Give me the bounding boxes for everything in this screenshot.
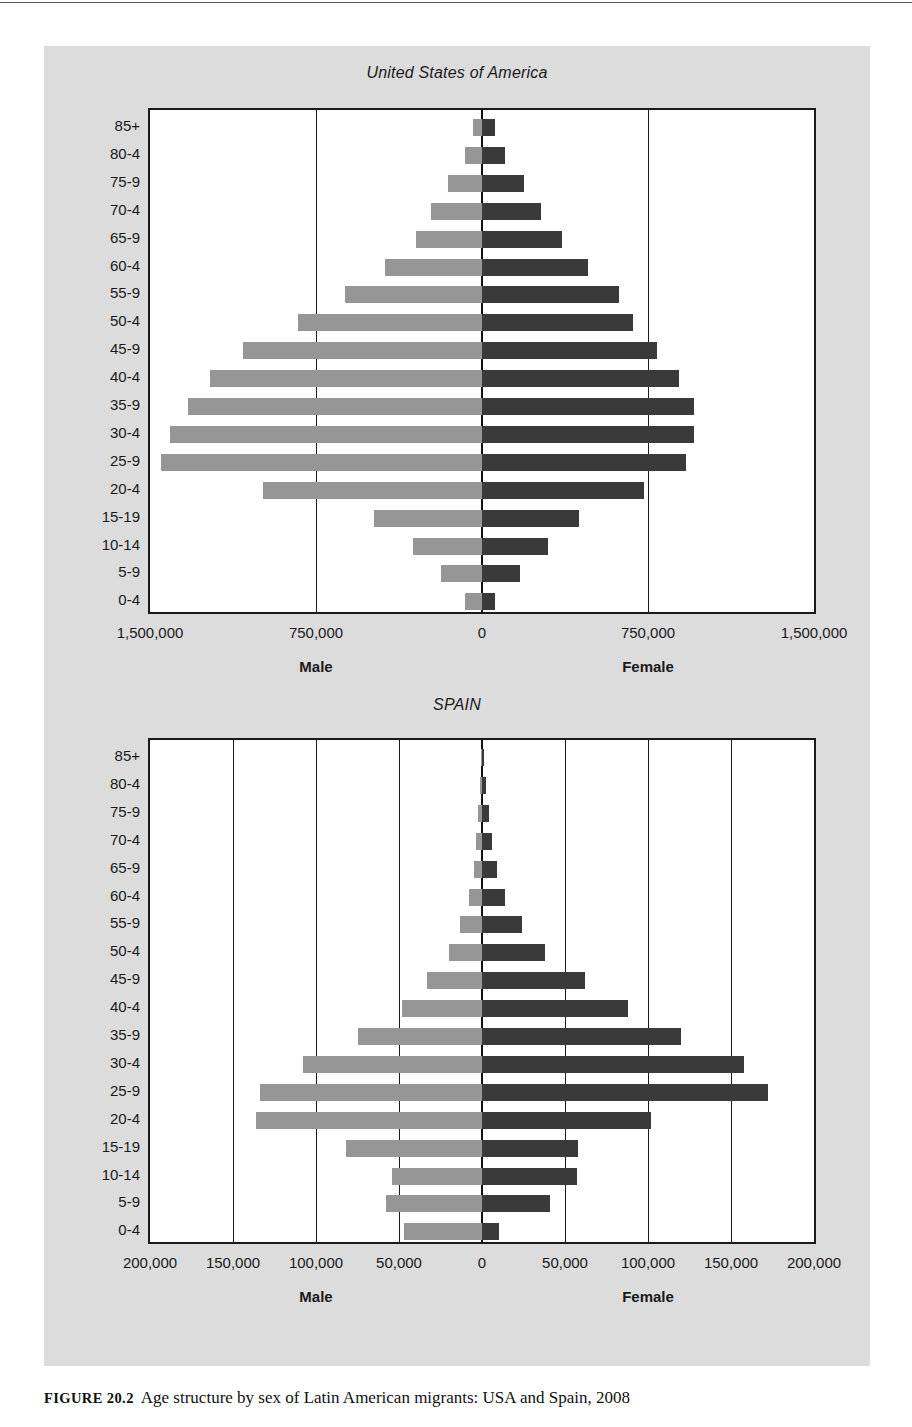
- gridline: [316, 110, 317, 612]
- y-axis-label-40-4: 40-4: [56, 998, 140, 1015]
- y-axis-label-75-9: 75-9: [56, 803, 140, 820]
- bar-female-45-9: [482, 342, 657, 359]
- y-axis-label-80-4: 80-4: [56, 775, 140, 792]
- x-axis-tick-label: 200,000: [123, 1254, 177, 1271]
- bar-male-15-19: [374, 510, 482, 527]
- male-axis-label: Male: [299, 1288, 332, 1305]
- bar-female-10-14: [482, 538, 548, 555]
- figure-panel: United States of America 85+80-475-970-4…: [44, 46, 870, 1366]
- y-axis-label-85+: 85+: [56, 747, 140, 764]
- bar-male-0-4: [404, 1223, 482, 1240]
- x-axis-tick-label: 150,000: [206, 1254, 260, 1271]
- bar-female-40-4: [482, 370, 679, 387]
- bar-female-35-9: [482, 1028, 681, 1045]
- bar-male-50-4: [449, 944, 482, 961]
- male-axis-label: Male: [299, 658, 332, 675]
- y-axis-label-25-9: 25-9: [56, 452, 140, 469]
- bar-female-50-4: [482, 944, 545, 961]
- bar-female-50-4: [482, 314, 633, 331]
- bar-female-0-4: [482, 1223, 499, 1240]
- chart-usa-plot-area: [148, 108, 816, 614]
- x-axis-tick-label: 100,000: [289, 1254, 343, 1271]
- bar-male-55-9: [460, 916, 482, 933]
- x-axis-tick-label: 750,000: [289, 624, 343, 641]
- bar-male-40-4: [402, 1000, 482, 1017]
- bar-male-55-9: [345, 286, 482, 303]
- bar-male-5-9: [441, 565, 482, 582]
- bar-female-0-4: [482, 593, 495, 610]
- y-axis-label-75-9: 75-9: [56, 173, 140, 190]
- bar-male-25-9: [260, 1084, 482, 1101]
- y-axis-label-80-4: 80-4: [56, 145, 140, 162]
- y-axis-label-5-9: 5-9: [56, 1193, 140, 1210]
- bar-female-5-9: [482, 565, 520, 582]
- bar-male-85+: [473, 119, 482, 136]
- bar-female-20-4: [482, 1112, 651, 1129]
- x-axis-tick-label: 1,500,000: [781, 624, 848, 641]
- bar-male-80-4: [465, 147, 482, 164]
- bar-female-10-14: [482, 1168, 577, 1185]
- x-axis-tick-label: 0: [478, 624, 486, 641]
- bar-male-75-9: [448, 175, 482, 192]
- y-axis-label-65-9: 65-9: [56, 229, 140, 246]
- y-axis-label-55-9: 55-9: [56, 914, 140, 931]
- bar-female-40-4: [482, 1000, 628, 1017]
- bar-male-50-4: [298, 314, 482, 331]
- y-axis-label-30-4: 30-4: [56, 424, 140, 441]
- bar-female-70-4: [482, 833, 492, 850]
- bar-female-55-9: [482, 916, 522, 933]
- bar-male-15-19: [346, 1140, 482, 1157]
- bar-female-35-9: [482, 398, 694, 415]
- y-axis-label-35-9: 35-9: [56, 396, 140, 413]
- chart-spain-title: SPAIN: [44, 696, 870, 714]
- y-axis-label-35-9: 35-9: [56, 1026, 140, 1043]
- chart-usa-title: United States of America: [44, 64, 870, 82]
- y-axis-label-65-9: 65-9: [56, 859, 140, 876]
- y-axis-label-25-9: 25-9: [56, 1082, 140, 1099]
- y-axis-label-60-4: 60-4: [56, 257, 140, 274]
- bar-male-25-9: [161, 454, 482, 471]
- bar-female-25-9: [482, 1084, 768, 1101]
- bar-female-15-19: [482, 510, 579, 527]
- bar-female-30-4: [482, 426, 694, 443]
- bar-female-70-4: [482, 203, 541, 220]
- bar-male-40-4: [210, 370, 482, 387]
- y-axis-label-55-9: 55-9: [56, 284, 140, 301]
- bar-female-65-9: [482, 231, 562, 248]
- gridline: [731, 740, 732, 1242]
- y-axis-label-0-4: 0-4: [56, 591, 140, 608]
- bar-female-20-4: [482, 482, 644, 499]
- y-axis-label-20-4: 20-4: [56, 480, 140, 497]
- bar-male-30-4: [303, 1056, 482, 1073]
- bar-male-35-9: [188, 398, 482, 415]
- y-axis-label-15-19: 15-19: [56, 1138, 140, 1155]
- bar-female-55-9: [482, 286, 619, 303]
- bar-female-80-4: [482, 777, 486, 794]
- x-axis-tick-label: 100,000: [621, 1254, 675, 1271]
- bar-male-60-4: [385, 259, 482, 276]
- y-axis-label-45-9: 45-9: [56, 970, 140, 987]
- y-axis-label-40-4: 40-4: [56, 368, 140, 385]
- gridline: [233, 740, 234, 1242]
- bar-female-75-9: [482, 805, 489, 822]
- bar-male-70-4: [431, 203, 482, 220]
- page-top-rule: [0, 2, 912, 3]
- bar-female-85+: [482, 749, 484, 766]
- y-axis-label-30-4: 30-4: [56, 1054, 140, 1071]
- y-axis-label-45-9: 45-9: [56, 340, 140, 357]
- figure-number: FIGURE 20.2: [44, 1390, 134, 1406]
- x-axis-tick-label: 200,000: [787, 1254, 841, 1271]
- x-axis-tick-label: 50,000: [376, 1254, 422, 1271]
- y-axis-label-15-19: 15-19: [56, 508, 140, 525]
- y-axis-label-60-4: 60-4: [56, 887, 140, 904]
- y-axis-label-5-9: 5-9: [56, 563, 140, 580]
- bar-female-25-9: [482, 454, 686, 471]
- bar-male-65-9: [474, 861, 482, 878]
- x-axis-tick-label: 150,000: [704, 1254, 758, 1271]
- gridline: [648, 740, 649, 1242]
- bar-female-60-4: [482, 259, 588, 276]
- y-axis-label-20-4: 20-4: [56, 1110, 140, 1127]
- chart-spain-plot-area: [148, 738, 816, 1244]
- bar-female-65-9: [482, 861, 497, 878]
- bar-male-10-14: [392, 1168, 482, 1185]
